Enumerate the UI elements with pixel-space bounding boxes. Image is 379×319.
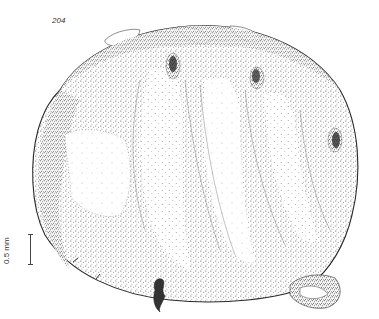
lower-left-hook <box>154 279 165 312</box>
dark-pit-3-core <box>332 132 340 148</box>
specimen-illustration <box>0 0 379 319</box>
dark-pit-1-core <box>169 56 177 72</box>
dark-pit-2-core <box>252 69 260 83</box>
